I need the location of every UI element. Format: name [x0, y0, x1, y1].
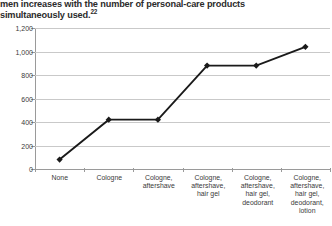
caption-line-1: men increases with the number of persona…	[0, 0, 245, 9]
data-point-marker	[253, 63, 259, 69]
caption-line-2: simultaneously used.	[0, 10, 90, 20]
caption-footnote-ref: 22	[90, 8, 97, 15]
figure-caption: men increases with the number of persona…	[0, 0, 332, 20]
data-point-marker	[302, 44, 308, 50]
x-axis-labels: NoneCologneCologne,aftershaveCologne,aft…	[35, 174, 332, 226]
line-chart: 02004006008001,0001,200 NoneCologneColog…	[0, 22, 332, 226]
x-axis-category-label: Cologne,aftershave,hair gel,deodorant	[233, 174, 283, 226]
x-axis-category-label: None	[35, 174, 85, 226]
x-axis-category-label: Cologne,aftershave,hair gel,deodorant,lo…	[283, 174, 332, 226]
x-axis-category-label: Cologne,aftershave	[134, 174, 184, 226]
data-line	[60, 47, 306, 160]
x-axis-category-label: Cologne,aftershave,hair gel	[184, 174, 234, 226]
x-axis-category-label: Cologne	[85, 174, 135, 226]
